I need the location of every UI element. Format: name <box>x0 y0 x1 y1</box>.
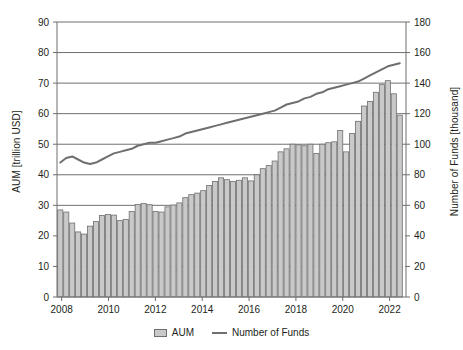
bar-swatch-icon <box>154 329 167 337</box>
bar-series-aum <box>58 81 403 297</box>
svg-text:2008: 2008 <box>51 304 74 315</box>
svg-text:40: 40 <box>414 230 426 241</box>
svg-text:2014: 2014 <box>191 304 214 315</box>
svg-text:0: 0 <box>414 292 420 303</box>
svg-text:60: 60 <box>38 108 50 119</box>
svg-text:60: 60 <box>414 200 426 211</box>
svg-text:90: 90 <box>38 17 50 28</box>
svg-text:2018: 2018 <box>285 304 308 315</box>
svg-text:160: 160 <box>414 47 431 58</box>
svg-text:2010: 2010 <box>97 304 120 315</box>
svg-text:50: 50 <box>38 139 50 150</box>
y-axis-left-ticks: 0102030405060708090 <box>38 17 57 303</box>
chart-legend: AUM Number of Funds <box>0 327 463 338</box>
svg-text:10: 10 <box>38 261 50 272</box>
svg-text:180: 180 <box>414 17 431 28</box>
svg-text:2020: 2020 <box>332 304 355 315</box>
svg-text:80: 80 <box>414 169 426 180</box>
svg-text:0: 0 <box>43 292 49 303</box>
svg-text:30: 30 <box>38 200 50 211</box>
svg-text:140: 140 <box>414 78 431 89</box>
svg-text:2016: 2016 <box>238 304 261 315</box>
svg-text:2022: 2022 <box>378 304 401 315</box>
svg-text:40: 40 <box>38 169 50 180</box>
line-swatch-icon <box>212 332 227 334</box>
legend-label-number-of-funds: Number of Funds <box>232 327 309 338</box>
legend-item-number-of-funds: Number of Funds <box>212 327 309 338</box>
svg-text:80: 80 <box>38 47 50 58</box>
svg-text:2012: 2012 <box>144 304 167 315</box>
legend-item-aum: AUM <box>154 327 194 338</box>
chart-container: AUM [trillion USD] Number of Funds [thou… <box>0 0 463 350</box>
y-axis-right-ticks: 020406080100120140160180 <box>406 17 431 303</box>
svg-text:20: 20 <box>414 261 426 272</box>
svg-text:100: 100 <box>414 139 431 150</box>
x-axis-ticks: 20082010201220142016201820202022 <box>51 297 402 315</box>
svg-text:70: 70 <box>38 78 50 89</box>
svg-text:20: 20 <box>38 230 50 241</box>
legend-label-aum: AUM <box>172 327 194 338</box>
chart-plot-area: 0102030405060708090 02040608010012014016… <box>0 0 463 350</box>
svg-text:120: 120 <box>414 108 431 119</box>
